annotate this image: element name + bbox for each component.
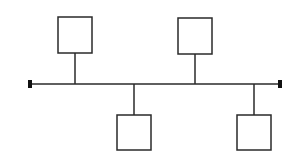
node-3 [117, 84, 151, 150]
bus-topology-diagram [0, 0, 296, 155]
node-4-box [237, 115, 271, 150]
right-terminator [278, 80, 282, 88]
node-2 [178, 18, 212, 84]
node-4 [237, 84, 271, 150]
node-2-box [178, 18, 212, 54]
node-3-box [117, 115, 151, 150]
left-terminator [28, 80, 32, 88]
node-1 [58, 17, 92, 84]
node-1-box [58, 17, 92, 53]
